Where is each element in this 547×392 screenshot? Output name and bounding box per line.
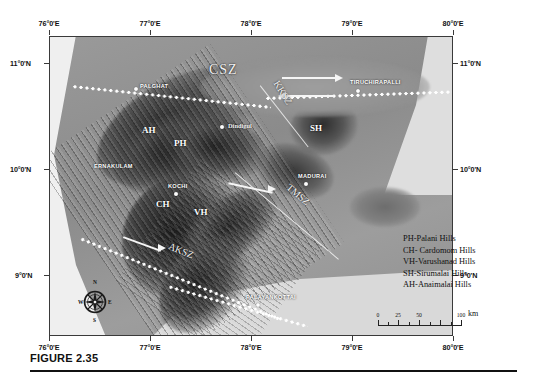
hill-code-vh: VH bbox=[194, 207, 208, 217]
caption-rule bbox=[30, 370, 517, 372]
scale-bar: 0 25 50 100 km bbox=[378, 312, 498, 334]
scale-unit-km: km bbox=[468, 309, 478, 318]
csz-arrowhead-upper bbox=[335, 74, 343, 82]
scale-tick-7 bbox=[451, 322, 452, 326]
hill-abbreviation-legend: PH-Palani Hills CH- Cardomom Hills VH-Va… bbox=[403, 233, 476, 291]
city-label-ernakulam: ERNAKULAM bbox=[94, 163, 133, 169]
x-tick-label-top-2: 78°0'E bbox=[241, 19, 262, 28]
x-tick-label-top-4: 80°0'E bbox=[443, 19, 464, 28]
x-tick-label-bottom-0: 76°0'E bbox=[39, 343, 60, 352]
city-dot-tiruchirapalli bbox=[356, 89, 360, 93]
scale-tick-0 bbox=[378, 320, 379, 326]
x-tick-bottom-3 bbox=[352, 336, 353, 341]
y-tick-label-left-0: 11°0'N bbox=[10, 59, 31, 68]
scale-tick-8 bbox=[461, 320, 462, 326]
city-label-palghat: PALGHAT bbox=[140, 83, 168, 89]
y-tick-label-right-0: 11°0'N bbox=[460, 59, 481, 68]
compass-label-south: S bbox=[93, 317, 96, 323]
y-tick-label-left-2: 9°0'N bbox=[15, 271, 32, 280]
y-tick-left-2 bbox=[44, 275, 49, 276]
city-label-palayankottai: PALAYANKOTTAI bbox=[246, 294, 296, 300]
x-tick-top-3 bbox=[352, 30, 353, 35]
city-label-madurai: MADURAI bbox=[298, 173, 327, 179]
scale-tick-4 bbox=[419, 320, 420, 326]
city-dot-dindigul bbox=[220, 125, 224, 129]
x-tick-bottom-1 bbox=[150, 336, 151, 341]
legend-entry-ch: CH- Cardomom Hills bbox=[403, 245, 476, 257]
legend-entry-sh: SH-Sirumalai Hills bbox=[403, 268, 476, 280]
city-label-dindigul: Dindigul bbox=[228, 122, 252, 129]
x-tick-label-top-3: 79°0'E bbox=[342, 19, 363, 28]
city-dot-kochi bbox=[174, 192, 178, 196]
x-tick-label-bottom-2: 78°0'E bbox=[241, 343, 262, 352]
compass-label-east: E bbox=[108, 299, 112, 305]
aksz-arrowhead bbox=[158, 244, 166, 252]
hill-code-ah: AH bbox=[142, 125, 156, 135]
scale-tick-1 bbox=[388, 322, 389, 326]
x-tick-label-top-1: 77°0'E bbox=[140, 19, 161, 28]
legend-entry-ah: AH-Anaimalai Hills bbox=[403, 279, 476, 291]
hill-code-ph: PH bbox=[174, 138, 187, 148]
figure-page: CSZ KKSZ TMSZ AKSZ AH PH CH VH SH PALGHA… bbox=[0, 0, 547, 392]
x-tick-label-top-0: 76°0'E bbox=[39, 19, 60, 28]
y-tick-right-1 bbox=[453, 169, 458, 170]
city-dot-madurai bbox=[304, 182, 308, 186]
compass-label-west: W bbox=[78, 299, 83, 305]
x-tick-label-bottom-4: 80°0'E bbox=[443, 343, 464, 352]
scale-label-50: 50 bbox=[416, 312, 422, 318]
csz-arrow-upper bbox=[282, 77, 337, 79]
y-tick-left-0 bbox=[44, 63, 49, 64]
scale-label-0: 0 bbox=[377, 312, 380, 318]
figure-caption: FIGURE 2.35 bbox=[30, 352, 98, 364]
x-tick-top-2 bbox=[251, 30, 252, 35]
x-tick-top-4 bbox=[453, 30, 454, 35]
x-tick-bottom-4 bbox=[453, 336, 454, 341]
x-tick-top-1 bbox=[150, 30, 151, 35]
x-tick-top-0 bbox=[49, 30, 50, 35]
y-tick-right-0 bbox=[453, 63, 458, 64]
eastern-inselbergs bbox=[350, 187, 420, 227]
scale-tick-3 bbox=[409, 322, 410, 326]
scale-tick-2 bbox=[398, 320, 399, 326]
compass-rose: N E S W bbox=[75, 278, 115, 326]
compass-label-north: N bbox=[93, 279, 97, 285]
tmsz-arrowhead bbox=[268, 185, 276, 193]
x-tick-label-bottom-1: 77°0'E bbox=[140, 343, 161, 352]
y-tick-label-left-1: 10°0'N bbox=[10, 165, 31, 174]
scale-tick-6 bbox=[440, 320, 441, 326]
x-tick-bottom-0 bbox=[49, 336, 50, 341]
y-tick-label-right-1: 10°0'N bbox=[460, 165, 481, 174]
city-dot-palghat bbox=[134, 87, 138, 91]
hill-code-ch: CH bbox=[156, 199, 170, 209]
legend-entry-vh: VH-Varushanad Hills bbox=[403, 256, 476, 268]
x-tick-bottom-2 bbox=[251, 336, 252, 341]
city-dot-palayankottai bbox=[256, 303, 260, 307]
city-label-tiruchirapalli: TIRUCHIRAPALLI bbox=[350, 79, 401, 85]
scale-tick-5 bbox=[430, 322, 431, 326]
y-tick-left-1 bbox=[44, 169, 49, 170]
city-label-kochi: KOCHI bbox=[168, 183, 188, 189]
legend-entry-ph: PH-Palani Hills bbox=[403, 233, 476, 245]
x-tick-label-bottom-3: 79°0'E bbox=[342, 343, 363, 352]
hill-code-sh: SH bbox=[310, 123, 322, 133]
shear-zone-label-csz: CSZ bbox=[209, 62, 238, 78]
scale-label-25: 25 bbox=[395, 312, 401, 318]
scale-label-100: 100 bbox=[457, 312, 465, 318]
